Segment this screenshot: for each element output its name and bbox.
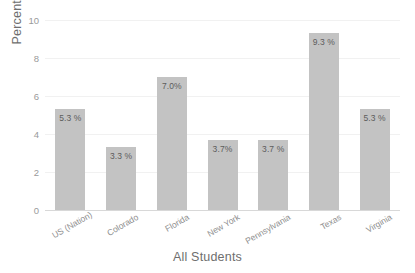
x-axis-title: All Students xyxy=(0,250,415,264)
bar[interactable] xyxy=(157,77,187,210)
bars-layer: 5.3 %3.3 %7.0%3.7%3.7 %9.3 %5.3 % xyxy=(45,20,400,210)
bar-value-label: 3.7% xyxy=(213,144,233,154)
bar-value-label: 7.0% xyxy=(162,81,182,91)
gridline: 0 xyxy=(45,210,400,211)
bar[interactable] xyxy=(55,109,85,210)
bar[interactable] xyxy=(309,33,339,210)
x-axis-tick-labels: US (Nation)ColoradoFloridaNew YorkPennsy… xyxy=(45,212,400,254)
bar-chart: Percentage 0246810 5.3 %3.3 %7.0%3.7%3.7… xyxy=(0,0,415,273)
bar-value-label: 9.3 % xyxy=(313,37,335,47)
bar-value-label: 5.3 % xyxy=(364,113,386,123)
bar[interactable] xyxy=(360,109,390,210)
y-axis-tick-label: 10 xyxy=(28,15,39,26)
y-axis-tick-label: 8 xyxy=(34,53,39,64)
y-axis-tick-label: 2 xyxy=(34,167,39,178)
bar-value-label: 3.3 % xyxy=(110,151,132,161)
y-axis-tick-label: 4 xyxy=(34,129,39,140)
bar-value-label: 5.3 % xyxy=(59,113,81,123)
y-axis-tick-label: 0 xyxy=(34,205,39,216)
x-axis-tick-label: US (Nation) xyxy=(50,212,89,240)
bar-value-label: 3.7 % xyxy=(262,144,284,154)
plot-area: 0246810 5.3 %3.3 %7.0%3.7%3.7 %9.3 %5.3 … xyxy=(45,20,400,210)
y-axis-tick-label: 6 xyxy=(34,91,39,102)
y-axis-title: Percentage xyxy=(10,0,30,148)
